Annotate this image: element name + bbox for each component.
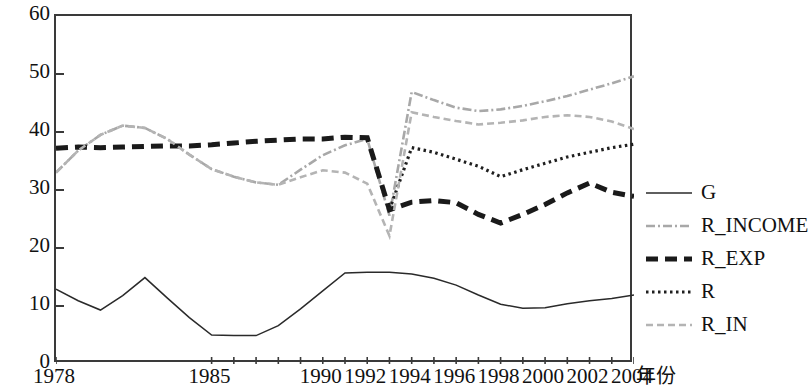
legend-swatch-dotted <box>646 285 692 299</box>
y-axis: 0102030405060 <box>0 0 50 390</box>
y-tick-label: 60 <box>4 3 50 24</box>
legend-swatch-dashed-thick <box>646 252 692 266</box>
series-line-r_exp <box>56 137 634 223</box>
series-layer <box>56 16 634 364</box>
chart-legend: GR_INCOMER_EXPRR_IN <box>646 176 804 341</box>
x-tick-label: 2002 <box>567 365 609 388</box>
x-tick-label: 1998 <box>478 365 520 388</box>
legend-item-g[interactable]: G <box>646 176 804 209</box>
y-tick-label: 30 <box>4 177 50 198</box>
legend-swatch-dashed-light <box>646 318 692 332</box>
series-line-g <box>56 272 634 335</box>
legend-item-r_in[interactable]: R_IN <box>646 308 804 341</box>
legend-label: G <box>701 182 716 203</box>
y-tick-label: 10 <box>4 293 50 314</box>
x-tick-label: 2004 <box>611 365 653 388</box>
y-tick-label: 50 <box>4 61 50 82</box>
plot-area <box>54 14 632 362</box>
x-tick-label: 1990 <box>300 365 342 388</box>
legend-item-r_exp[interactable]: R_EXP <box>646 242 804 275</box>
legend-swatch-solid-thin <box>646 186 692 200</box>
legend-swatch-dash-dot-light <box>646 219 692 233</box>
x-tick-label: 1985 <box>189 365 231 388</box>
x-axis: 年份 1978198519901992199419961998200020022… <box>0 363 804 390</box>
x-tick-label: 1996 <box>433 365 475 388</box>
y-tick-label: 20 <box>4 235 50 256</box>
x-tick-label: 1992 <box>344 365 386 388</box>
x-tick-label: 1994 <box>389 365 431 388</box>
legend-label: R_EXP <box>701 248 765 269</box>
legend-label: R <box>701 281 715 302</box>
legend-label: R_INCOME <box>701 215 808 236</box>
legend-item-r_income[interactable]: R_INCOME <box>646 209 804 242</box>
legend-label: R_IN <box>701 314 748 335</box>
x-tick-label: 1978 <box>33 365 75 388</box>
legend-item-r[interactable]: R <box>646 275 804 308</box>
x-tick-label: 2000 <box>522 365 564 388</box>
y-tick-label: 40 <box>4 119 50 140</box>
series-line-r_in <box>56 112 634 236</box>
